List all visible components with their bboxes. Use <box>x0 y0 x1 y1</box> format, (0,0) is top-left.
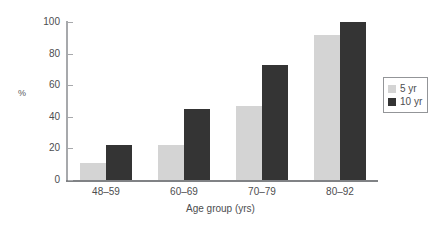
bar-chart: % 020406080100 48–5960–6970–7980–92 Age … <box>0 0 441 227</box>
y-axis-title: % <box>12 88 32 98</box>
bar <box>314 35 340 180</box>
bar <box>106 145 132 180</box>
y-axis-tick-label: 40 <box>34 112 60 122</box>
bar-group <box>314 22 366 180</box>
bar <box>184 109 210 180</box>
legend-item-label: 10 yr <box>400 97 422 107</box>
legend-swatch-icon <box>388 85 396 93</box>
x-axis-tick-label: 48–59 <box>61 186 151 197</box>
bar <box>80 163 106 180</box>
bar <box>262 65 288 180</box>
y-axis-tick-labels: 020406080100 <box>30 0 60 227</box>
bar <box>158 145 184 180</box>
x-axis-line <box>66 180 378 182</box>
x-axis-tick-label: 70–79 <box>217 186 307 197</box>
bar-group <box>80 22 132 180</box>
legend-swatch-icon <box>388 98 396 106</box>
y-axis-tick-label: 60 <box>34 80 60 90</box>
x-axis-title: Age group (yrs) <box>0 203 441 214</box>
y-axis-tick-mark <box>68 180 73 181</box>
legend-item: 10 yr <box>388 95 422 108</box>
bar-group <box>158 22 210 180</box>
legend-item-label: 5 yr <box>400 84 417 94</box>
y-axis-tick-label: 80 <box>34 49 60 59</box>
x-axis-tick-label: 60–69 <box>139 186 229 197</box>
x-axis-tick-label: 80–92 <box>295 186 385 197</box>
legend-item: 5 yr <box>388 82 422 95</box>
y-axis-tick-label: 0 <box>34 175 60 185</box>
legend: 5 yr10 yr <box>383 77 428 113</box>
y-axis-tick-label: 20 <box>34 143 60 153</box>
plot-area <box>66 22 378 180</box>
bar <box>340 22 366 180</box>
bar-group <box>236 22 288 180</box>
bar <box>236 106 262 180</box>
y-axis-tick-label: 100 <box>34 17 60 27</box>
